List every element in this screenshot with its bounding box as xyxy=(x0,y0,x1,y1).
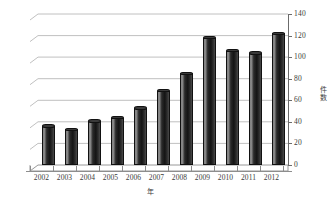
y-tick-label-60: 60 xyxy=(294,96,302,104)
y-tick-20 xyxy=(288,143,292,144)
x-tick-7 xyxy=(191,166,192,171)
x-tick-9 xyxy=(237,166,238,171)
x-tick-11 xyxy=(283,166,284,171)
y-axis-line xyxy=(288,14,289,165)
y-tick-label-0: 0 xyxy=(294,161,298,169)
y-tick-label-20: 20 xyxy=(294,139,302,147)
y-tick-label-80: 80 xyxy=(294,75,302,83)
y-tick-0 xyxy=(288,165,292,166)
x-tick-label-2012: 2012 xyxy=(257,173,287,182)
y-tick-60 xyxy=(288,100,292,101)
x-axis-title: 年 xyxy=(0,186,300,196)
x-tick-2 xyxy=(76,166,77,171)
x-tick-1 xyxy=(53,166,54,171)
y-tick-label-140: 140 xyxy=(294,10,306,18)
y-tick-100 xyxy=(288,57,292,58)
y-tick-120 xyxy=(288,36,292,37)
x-tick-6 xyxy=(168,166,169,171)
y-tick-label-40: 40 xyxy=(294,118,302,126)
bar-series xyxy=(30,14,288,165)
x-tick-5 xyxy=(145,166,146,171)
x-tick-0 xyxy=(30,166,31,171)
x-tick-10 xyxy=(260,166,261,171)
y-tick-80 xyxy=(288,79,292,80)
x-tick-3 xyxy=(99,166,100,171)
bar-chart: 140 120 100 80 60 40 20 0 件数 2002 2003 2… xyxy=(0,0,336,210)
x-tick-4 xyxy=(122,166,123,171)
y-tick-40 xyxy=(288,122,292,123)
x-tick-8 xyxy=(214,166,215,171)
y-axis-title: 件数 xyxy=(318,86,328,101)
y-tick-label-100: 100 xyxy=(294,53,306,61)
y-tick-label-120: 120 xyxy=(294,32,306,40)
y-tick-140 xyxy=(288,14,292,15)
x-axis-line xyxy=(26,171,292,172)
